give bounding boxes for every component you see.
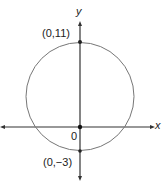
x-axis-label: x — [155, 119, 161, 131]
coordinate-diagram — [0, 0, 167, 182]
y-axis-label: y — [76, 5, 82, 17]
origin-label: 0 — [71, 130, 77, 142]
point-bottom — [78, 149, 82, 153]
point-label-top: (0,11) — [42, 27, 70, 39]
x-axis — [0, 125, 155, 129]
point-label-bottom: (0,−3) — [43, 156, 72, 168]
y-axis — [78, 21, 82, 181]
point-top — [78, 40, 82, 44]
point-origin — [78, 125, 82, 129]
